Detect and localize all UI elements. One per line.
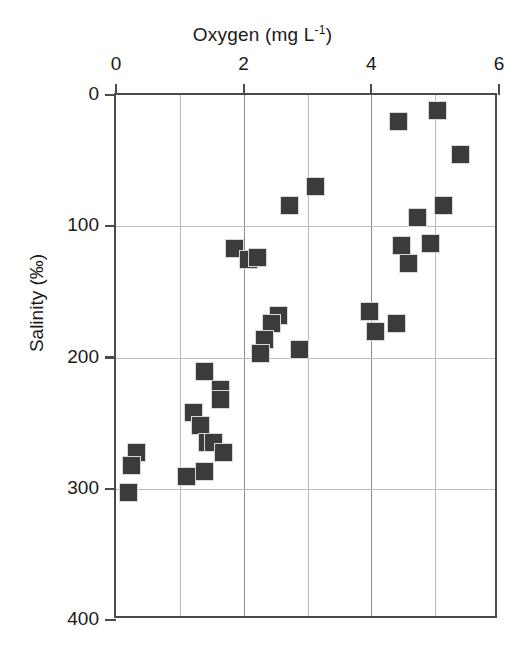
y-axis-tick-label: 300 — [37, 477, 99, 499]
x-axis-title: Oxygen (mg L-1) — [0, 24, 525, 46]
x-axis-tick — [498, 84, 500, 95]
data-point-marker — [360, 302, 379, 321]
data-point-marker — [280, 196, 299, 215]
scatter-chart-figure: Oxygen (mg L-1) Salinity (‰) 02460100200… — [0, 0, 525, 654]
data-point-marker — [428, 101, 447, 120]
y-axis-tick — [105, 619, 116, 621]
y-axis-tick-label: 0 — [37, 83, 99, 105]
gridline-vertical-major — [371, 95, 372, 616]
data-point-marker — [421, 234, 440, 253]
data-point-marker — [177, 467, 196, 486]
gridline-vertical-major — [244, 95, 245, 616]
x-axis-title-exponent: -1 — [315, 23, 326, 37]
data-point-marker — [408, 208, 427, 227]
gridline-vertical — [435, 95, 436, 616]
y-axis-tick-label: 200 — [37, 346, 99, 368]
gridline-vertical — [180, 95, 181, 616]
y-axis-tick — [105, 356, 116, 358]
x-axis-title-suffix: ) — [326, 24, 333, 45]
data-point-marker — [387, 314, 406, 333]
gridline-horizontal — [116, 489, 495, 490]
data-point-marker — [290, 340, 309, 359]
data-point-marker — [248, 248, 267, 267]
data-point-marker — [399, 254, 418, 273]
data-point-marker — [451, 145, 470, 164]
data-point-marker — [434, 196, 453, 215]
data-point-marker — [306, 177, 325, 196]
data-point-marker — [195, 462, 214, 481]
plot-area: 02460100200300400 — [114, 93, 497, 618]
y-axis-tick — [105, 94, 116, 96]
x-axis-tick-label: 2 — [224, 53, 264, 75]
gridline-horizontal — [116, 226, 495, 227]
y-axis-tick — [105, 225, 116, 227]
data-point-marker — [214, 443, 233, 462]
x-axis-tick — [243, 84, 245, 95]
y-axis-tick — [105, 488, 116, 490]
x-axis-title-base: Oxygen (mg L — [193, 24, 315, 45]
x-axis-tick-label: 6 — [479, 53, 519, 75]
y-axis-tick-label: 400 — [37, 608, 99, 630]
data-point-marker — [119, 483, 138, 502]
data-point-marker — [251, 344, 270, 363]
x-axis-tick-label: 0 — [96, 53, 136, 75]
data-point-marker — [366, 322, 385, 341]
y-axis-tick-label: 100 — [37, 214, 99, 236]
data-point-marker — [211, 390, 230, 409]
data-point-marker — [122, 456, 141, 475]
x-axis-tick-label: 4 — [351, 53, 391, 75]
x-axis-tick — [370, 84, 372, 95]
data-point-marker — [389, 112, 408, 131]
